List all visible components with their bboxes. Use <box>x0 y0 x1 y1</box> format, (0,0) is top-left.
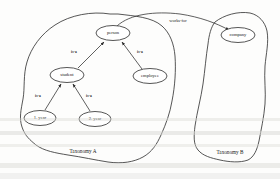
edge-label-works-for: works-for <box>169 18 187 23</box>
edge-employee-isa-person <box>122 42 142 69</box>
node-student-label: student <box>60 72 74 77</box>
node-employee-label: employee <box>141 73 159 78</box>
taxonomy-mapping-diagram: person student employee 1. year 2. year … <box>0 0 280 179</box>
node-person-label: person <box>107 30 120 35</box>
node-student[interactable]: student <box>50 68 84 83</box>
node-company-label: company <box>230 32 248 37</box>
taxonomy-b-label: Taxonomy B <box>217 149 244 155</box>
edge-student-isa-person <box>78 42 104 68</box>
edge-label-employee-isa: is-a <box>137 50 143 54</box>
node-year1[interactable]: 1. year <box>24 111 56 126</box>
taxonomy-a-label: Taxonomy A <box>70 148 97 154</box>
edge-label-student-isa: is-a <box>71 50 77 54</box>
node-employee[interactable]: employee <box>133 69 167 84</box>
edge-label-year1-isa: is-a <box>35 94 41 98</box>
node-person[interactable]: person <box>96 26 130 41</box>
node-company[interactable]: company <box>221 28 255 43</box>
node-year2[interactable]: 2. year <box>79 112 111 127</box>
diagram-canvas: person student employee 1. year 2. year … <box>0 0 280 179</box>
edge-label-year2-isa: is-a <box>86 94 92 98</box>
node-year2-label: 2. year <box>89 116 102 121</box>
node-year1-label: 1. year <box>34 115 47 120</box>
edge-year1-isa-student <box>45 84 61 110</box>
